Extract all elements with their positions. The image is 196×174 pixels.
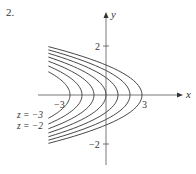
- x-axis-arrow-icon: [177, 93, 183, 98]
- y-tick-label-2: 2: [95, 41, 100, 52]
- y-axis-arrow-icon: [104, 12, 109, 18]
- contour-diagram: 2. x y −3 3 2 −2 z = −3 z = −2: [0, 0, 196, 174]
- x-tick-label-neg3: −3: [54, 99, 65, 110]
- y-axis-label: y: [110, 8, 116, 20]
- x-axis-label: x: [185, 88, 191, 100]
- x-tick-label-3: 3: [142, 99, 147, 110]
- curve-label-z-neg2: z = −2: [16, 121, 43, 131]
- problem-number: 2.: [6, 6, 15, 18]
- axes: [38, 16, 178, 165]
- y-tick-label-neg2: −2: [89, 139, 100, 150]
- curve-label-z-neg3: z = −3: [16, 110, 43, 120]
